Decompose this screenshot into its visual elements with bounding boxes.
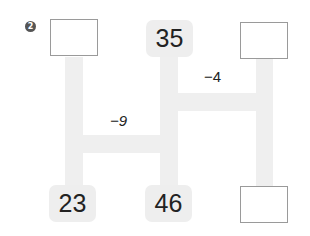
ladder-column-middle (160, 55, 178, 187)
answer-box-top-right[interactable] (240, 22, 288, 59)
number-tile-top-middle: 35 (146, 20, 193, 57)
ladder-rung-lower (65, 135, 178, 153)
answer-box-top-left[interactable] (50, 19, 98, 56)
number-tile-bottom-middle: 46 (145, 185, 192, 222)
operation-label-lower: −9 (110, 112, 127, 130)
ladder-puzzle: 2 35 −4 −9 23 46 (0, 0, 310, 236)
ladder-column-left (65, 57, 83, 187)
number-tile-bottom-left: 23 (49, 185, 96, 222)
problem-number-badge: 2 (25, 21, 36, 32)
ladder-rung-upper (160, 93, 273, 111)
ladder-column-right (256, 58, 273, 188)
answer-box-bottom-right[interactable] (240, 186, 288, 223)
operation-label-upper: −4 (204, 68, 221, 86)
